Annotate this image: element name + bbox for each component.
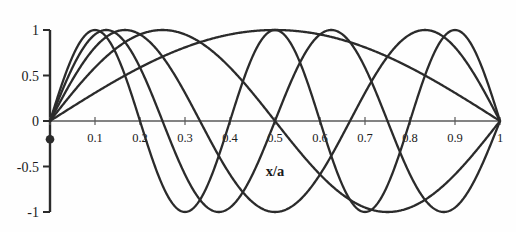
x-axis-tick-labels: 0.10.20.30.40.50.60.70.80.91 — [87, 131, 503, 145]
x-tick-label: 0.1 — [87, 131, 103, 145]
chart-figure: -1-0.500.51 0.10.20.30.40.50.60.70.80.91… — [0, 0, 516, 232]
series-line-n1 — [50, 30, 500, 121]
y-axis-tick-labels: -1-0.500.51 — [17, 23, 39, 220]
plot-canvas: -1-0.500.51 0.10.20.30.40.50.60.70.80.91… — [0, 0, 516, 232]
x-tick-label: 1 — [497, 131, 503, 145]
annotation-group — [46, 135, 55, 144]
x-axis-title: x/a — [266, 163, 285, 179]
y-tick-label: -1 — [27, 205, 39, 220]
x-tick-label: 0.3 — [177, 131, 193, 145]
y-tick-label: 0.5 — [22, 69, 40, 84]
x-tick-label: 0.7 — [357, 131, 373, 145]
x-tick-label: 0.9 — [447, 131, 463, 145]
origin-marker-dot — [46, 135, 55, 144]
y-axis: -1-0.500.51 — [17, 23, 50, 220]
y-tick-label: -0.5 — [17, 160, 39, 175]
y-tick-label: 1 — [32, 23, 39, 38]
y-tick-label: 0 — [32, 114, 39, 129]
